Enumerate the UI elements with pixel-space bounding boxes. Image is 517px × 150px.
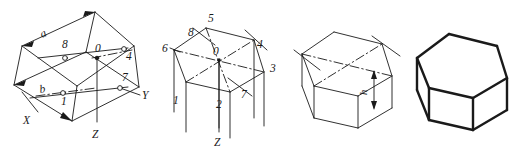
axis-line-8-0-4: [38, 48, 128, 58]
axis-label-z: Z: [214, 136, 221, 148]
point-label-6: 6: [162, 42, 168, 54]
point-label-1: 1: [61, 95, 67, 107]
dimension-label-h: h: [358, 90, 369, 95]
y-axis-ray: [120, 88, 140, 95]
panel-step-2: 0 5 8 6 4 3 1 2 7 Z: [160, 0, 290, 150]
point-label-4: 4: [126, 50, 132, 62]
point-label-3: 3: [269, 62, 276, 74]
prism-top-face: [302, 32, 392, 96]
axis-label-z: Z: [92, 128, 99, 140]
center-point-marker: [217, 58, 221, 62]
point-label-2: 2: [216, 98, 222, 110]
rhombus-connectors: [14, 12, 139, 121]
point-label-8: 8: [62, 38, 68, 50]
axis-label-x: X: [22, 114, 31, 126]
point-label-8: 8: [188, 26, 194, 38]
point-label-0: 0: [213, 45, 219, 57]
panel-step-3: h: [292, 0, 410, 150]
prism-bottom-outline: [302, 86, 392, 128]
point-label-5: 5: [208, 12, 214, 24]
point-label-7: 7: [122, 71, 129, 83]
panel-step-1: a b X Y Z 0 8 1 4 7: [0, 0, 155, 150]
technical-drawing-sheet: a b X Y Z 0 8 1 4 7: [0, 0, 517, 150]
point-label-7: 7: [241, 88, 248, 100]
point-label-4: 4: [257, 38, 263, 50]
dimension-label-b: b: [39, 82, 47, 95]
top-face-diagonals: [302, 44, 392, 86]
panel-step-4: [405, 0, 517, 150]
axis-label-y: Y: [142, 89, 150, 101]
point-label-1: 1: [173, 94, 179, 106]
finished-top-face: [417, 34, 507, 98]
point-label-0: 0: [95, 42, 101, 54]
